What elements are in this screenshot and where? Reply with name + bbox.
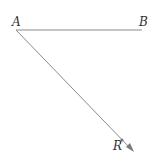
- label-a: A: [12, 16, 21, 28]
- label-b: B: [139, 16, 148, 28]
- label-r: R: [113, 140, 122, 152]
- ray-ar: [16, 30, 131, 149]
- geometry-figure: [0, 0, 152, 164]
